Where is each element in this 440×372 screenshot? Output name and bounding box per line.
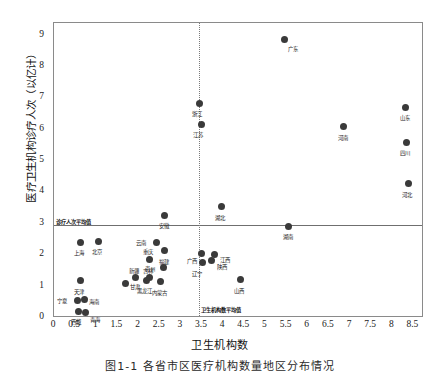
- y-tick-label: 6: [22, 124, 44, 134]
- data-point-label: 四川: [400, 151, 410, 156]
- data-point: [237, 276, 244, 283]
- data-point: [161, 247, 168, 254]
- plot-area: 诊疗人次平均值卫生机构数平均值 广东浙江江苏山东河南四川河北湖北安徽湖南上海北京…: [53, 22, 423, 317]
- data-point-label: 北京: [92, 250, 102, 255]
- data-point: [340, 123, 347, 130]
- data-point-label: 新疆: [129, 269, 139, 274]
- y-tick-label: 8: [22, 61, 44, 71]
- data-point-label: 湖南: [283, 235, 293, 240]
- data-point: [81, 296, 88, 303]
- data-point: [143, 277, 150, 284]
- data-point: [146, 256, 153, 263]
- data-point-label: 云南: [136, 241, 146, 246]
- data-point-label: 上海: [74, 251, 84, 256]
- data-point: [77, 239, 84, 246]
- y-tick-label: 9: [22, 30, 44, 40]
- data-point-label: 广东: [288, 47, 298, 52]
- data-point-label: 河北: [402, 193, 412, 198]
- y-tick-label: 2: [22, 249, 44, 259]
- data-point-label: 浙江: [192, 112, 202, 117]
- data-point-label: 山西: [234, 289, 244, 294]
- y-axis-ticks: 0123456789: [22, 0, 48, 372]
- y-tick-label: 7: [22, 92, 44, 102]
- data-point-label: 安徽: [159, 224, 169, 229]
- reference-line-label-mean-institutions: 卫生机构数平均值: [201, 306, 241, 313]
- reference-line-mean-visits: [54, 225, 422, 226]
- x-tick-label: 8.5: [399, 320, 425, 330]
- data-point-label: 海南: [89, 300, 99, 305]
- data-point: [405, 180, 412, 187]
- reference-line-label-mean-visits: 诊疗人次平均值: [56, 218, 91, 225]
- data-point: [198, 121, 205, 128]
- data-point-label: 甘肃: [130, 285, 140, 290]
- data-point: [75, 308, 82, 315]
- data-point: [82, 309, 89, 316]
- data-point: [153, 239, 160, 246]
- figure-caption: 图1-1 各省市区医疗机构数量地区分布情况: [0, 357, 440, 372]
- data-point: [198, 250, 205, 257]
- data-point: [95, 238, 102, 245]
- data-point-label: 陕西: [217, 265, 227, 270]
- data-point-label: 江苏: [193, 133, 203, 138]
- data-point: [402, 104, 409, 111]
- data-point: [208, 257, 215, 264]
- data-point-label: 重庆: [143, 250, 153, 255]
- data-point: [157, 278, 164, 285]
- data-point-label: 宁夏: [57, 299, 67, 304]
- data-point: [160, 264, 167, 271]
- data-point: [196, 100, 203, 107]
- data-point: [77, 277, 84, 284]
- x-axis-ticks: 00.511.522.533.544.555.566.577.588.5: [0, 318, 440, 334]
- data-point-label: 湖北: [215, 216, 225, 221]
- data-point-label: 山东: [400, 116, 410, 121]
- figure-container: 医疗卫生机构诊疗人次（以亿计） 0123456789 诊疗人次平均值卫生机构数平…: [0, 0, 440, 372]
- data-point: [403, 139, 410, 146]
- y-tick-label: 1: [22, 281, 44, 291]
- data-point: [285, 223, 292, 230]
- data-point-label: 河南: [338, 136, 348, 141]
- data-point: [281, 36, 288, 43]
- data-point-label: 广西: [187, 259, 197, 264]
- data-point-label: 江西: [220, 258, 230, 263]
- data-point: [122, 280, 129, 287]
- data-point-label: 天津: [74, 290, 84, 295]
- y-tick-label: 4: [22, 186, 44, 196]
- x-axis-title: 卫生机构数: [0, 336, 440, 352]
- y-tick-label: 5: [22, 155, 44, 165]
- data-point-label: 辽宁: [192, 272, 202, 277]
- data-point: [218, 203, 225, 210]
- data-point: [74, 297, 81, 304]
- y-tick-label: 3: [22, 218, 44, 228]
- data-point: [132, 274, 139, 281]
- data-point: [161, 212, 168, 219]
- data-point-label: 内蒙古: [152, 291, 167, 296]
- data-point-label: 吉林: [143, 269, 153, 274]
- data-point: [199, 259, 206, 266]
